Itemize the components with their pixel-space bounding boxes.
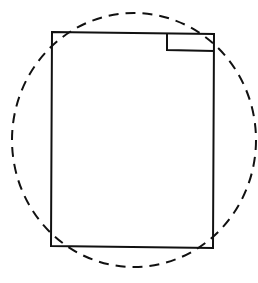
geometry-diagram xyxy=(0,0,258,283)
background xyxy=(0,0,258,283)
